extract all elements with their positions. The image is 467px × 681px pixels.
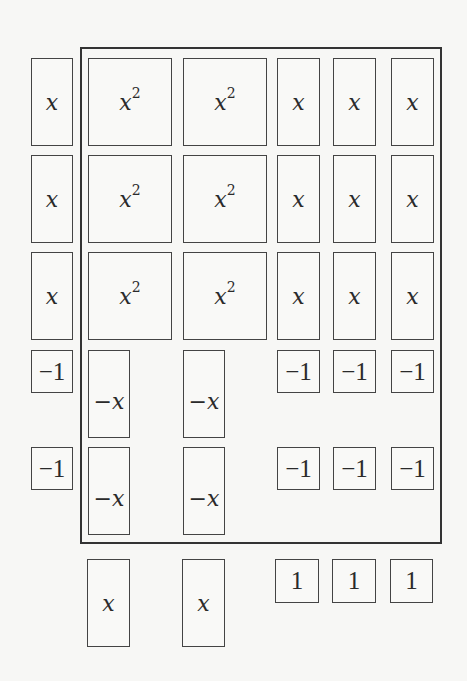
tile-label: x — [348, 187, 360, 212]
tile-label: x2 — [214, 283, 235, 309]
product-tile-x: x — [391, 58, 434, 146]
product-tile-negx: −x — [183, 447, 225, 535]
left-factor-tile-x: x — [31, 252, 73, 340]
product-tile-x2: x2 — [183, 155, 267, 243]
bottom-factor-tile-unit: 1 — [332, 559, 376, 603]
tile-label: 1 — [348, 567, 361, 595]
tile-label: −x — [94, 486, 125, 511]
tile-label: x — [348, 284, 360, 309]
tile-label: −1 — [39, 358, 66, 386]
tile-exponent: 2 — [227, 85, 236, 101]
left-factor-tile-x: x — [31, 58, 73, 146]
tile-label: x2 — [214, 186, 235, 212]
product-tile-x: x — [277, 252, 320, 340]
left-factor-tile-unit: −1 — [31, 447, 73, 490]
tile-label: −x — [189, 389, 220, 414]
product-tile-x2: x2 — [183, 252, 267, 340]
product-tile-x2: x2 — [183, 58, 267, 146]
product-tile-x: x — [333, 155, 376, 243]
tile-label: −1 — [39, 455, 66, 483]
tile-exponent: 2 — [132, 182, 141, 198]
tile-label: x — [406, 284, 418, 309]
tile-exponent: 2 — [227, 279, 236, 295]
tile-label: x — [102, 591, 114, 616]
tile-exponent: 2 — [227, 182, 236, 198]
tile-label: x2 — [214, 89, 235, 115]
tile-label: −1 — [399, 455, 426, 483]
tile-label: −1 — [285, 455, 312, 483]
tile-label: x — [406, 187, 418, 212]
product-tile-unit: −1 — [277, 447, 320, 490]
tile-label: −1 — [341, 455, 368, 483]
tile-label: x — [292, 187, 304, 212]
left-factor-tile-unit: −1 — [31, 350, 73, 393]
tile-exponent: 2 — [132, 279, 141, 295]
product-tile-x: x — [333, 252, 376, 340]
tile-label: x2 — [119, 89, 140, 115]
bottom-factor-tile-unit: 1 — [390, 559, 433, 603]
product-tile-unit: −1 — [391, 350, 434, 393]
tile-label: x — [406, 90, 418, 115]
product-tile-x2: x2 — [88, 155, 172, 243]
tile-label: x — [46, 187, 58, 212]
product-tile-x2: x2 — [88, 58, 172, 146]
product-tile-x: x — [333, 58, 376, 146]
tile-label: 1 — [291, 567, 304, 595]
product-tile-x: x — [277, 155, 320, 243]
product-tile-negx: −x — [88, 350, 130, 438]
product-tile-unit: −1 — [277, 350, 320, 393]
product-tile-x: x — [391, 252, 434, 340]
product-tile-x: x — [277, 58, 320, 146]
tile-label: −x — [94, 389, 125, 414]
bottom-factor-tile-x: x — [87, 559, 130, 647]
bottom-factor-tile-unit: 1 — [275, 559, 319, 603]
tile-exponent: 2 — [132, 85, 141, 101]
tile-label: 1 — [405, 567, 418, 595]
tile-label: x — [292, 284, 304, 309]
product-tile-unit: −1 — [333, 350, 376, 393]
product-tile-x: x — [391, 155, 434, 243]
tile-label: −1 — [341, 358, 368, 386]
product-tile-unit: −1 — [333, 447, 376, 490]
bottom-factor-tile-x: x — [182, 559, 225, 647]
product-tile-negx: −x — [183, 350, 225, 438]
tile-label: x — [197, 591, 209, 616]
tile-label: −1 — [399, 358, 426, 386]
tile-label: x — [348, 90, 360, 115]
tile-label: x — [46, 90, 58, 115]
tile-label: x — [46, 284, 58, 309]
tile-label: −x — [189, 486, 220, 511]
tile-label: x2 — [119, 186, 140, 212]
tile-label: −1 — [285, 358, 312, 386]
product-tile-negx: −x — [88, 447, 130, 535]
tile-label: x2 — [119, 283, 140, 309]
tile-label: x — [292, 90, 304, 115]
product-tile-x2: x2 — [88, 252, 172, 340]
left-factor-tile-x: x — [31, 155, 73, 243]
product-tile-unit: −1 — [391, 447, 434, 490]
